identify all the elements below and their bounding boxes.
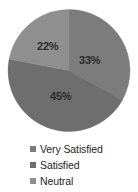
slice-label-very-satisfied: 33% xyxy=(79,55,100,66)
legend-item-very-satisfied[interactable]: Very Satisfied xyxy=(30,141,138,156)
legend-item-satisfied[interactable]: Satisfied xyxy=(30,157,138,172)
slice-label-neutral: 22% xyxy=(37,41,58,52)
legend-swatch-icon xyxy=(30,146,36,152)
pie-svg xyxy=(0,0,138,140)
pie-chart-figure: 22% 33% 45% Very SatisfiedSatisfiedNeutr… xyxy=(0,0,138,192)
slice-label-satisfied: 45% xyxy=(50,91,71,102)
legend-item-label: Satisfied xyxy=(40,159,79,171)
legend-item-label: Neutral xyxy=(40,175,73,187)
legend-item-neutral[interactable]: Neutral xyxy=(30,173,138,188)
legend-swatch-icon xyxy=(30,178,36,184)
legend-swatch-icon xyxy=(30,162,36,168)
pie-slice-group xyxy=(8,10,130,132)
legend-item-label: Very Satisfied xyxy=(40,143,103,155)
chart-legend: Very SatisfiedSatisfiedNeutral xyxy=(30,141,138,189)
pie-plot-area: 22% 33% 45% xyxy=(0,0,138,140)
